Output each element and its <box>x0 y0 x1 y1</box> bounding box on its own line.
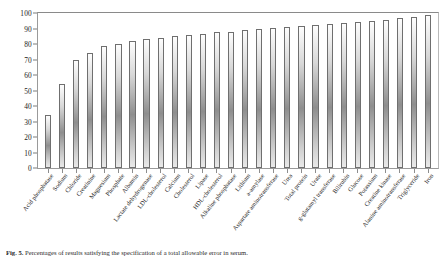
bar-slot <box>125 13 139 168</box>
bar-slot <box>41 13 55 168</box>
y-tick-label: 90 <box>24 24 32 33</box>
bar-slot <box>280 13 294 168</box>
y-tick-label: 70 <box>24 55 32 64</box>
bar-slot <box>351 13 365 168</box>
bar-slot <box>168 13 182 168</box>
bar <box>270 28 276 168</box>
bar <box>59 84 65 168</box>
bar <box>87 53 93 168</box>
bar <box>284 27 290 168</box>
y-tick-label: 20 <box>24 133 32 142</box>
bar-slot <box>224 13 238 168</box>
bar-slot <box>140 13 154 168</box>
bar-slot <box>210 13 224 168</box>
x-tick-label-text: Acid phosphatase <box>21 172 54 212</box>
bar <box>341 23 347 168</box>
bar-slot <box>421 13 435 168</box>
bar-slot <box>393 13 407 168</box>
bar-slot <box>196 13 210 168</box>
bar <box>45 115 51 168</box>
x-axis-labels: Acid phosphataseSodiumChlorideCreatinine… <box>0 170 445 245</box>
bar <box>214 32 220 168</box>
bar <box>228 32 234 168</box>
caption-label: Fig. 5. <box>6 249 23 256</box>
bar <box>327 24 333 168</box>
caption-text: Percentages of results satisfying the sp… <box>25 249 248 256</box>
bar-slot <box>83 13 97 168</box>
bar-series <box>38 13 438 168</box>
bar <box>200 34 206 168</box>
figure-caption: Fig. 5. Percentages of results satisfyin… <box>6 249 441 259</box>
y-tick-label: 100 <box>20 9 32 18</box>
bar <box>298 26 304 168</box>
bar <box>312 25 318 168</box>
bar-slot <box>69 13 83 168</box>
bar <box>186 35 192 168</box>
bar <box>411 17 417 168</box>
bar <box>355 22 361 168</box>
bar <box>397 18 403 168</box>
x-tick-label: Acid phosphatase <box>21 172 54 212</box>
bar <box>172 36 178 168</box>
bar-slot <box>252 13 266 168</box>
y-tick-label: 10 <box>24 148 32 157</box>
bar <box>242 30 248 168</box>
bar-slot <box>154 13 168 168</box>
bar <box>369 21 375 168</box>
bar <box>129 41 135 168</box>
y-tick-label: 40 <box>24 102 32 111</box>
y-tick-label: 80 <box>24 40 32 49</box>
bar-slot <box>55 13 69 168</box>
bar <box>158 38 164 168</box>
bar <box>143 39 149 168</box>
plot-area <box>37 12 439 169</box>
bar-slot <box>266 13 280 168</box>
x-tick-label-text: Iron <box>423 172 435 185</box>
bar-slot <box>238 13 252 168</box>
y-tick-label: 60 <box>24 71 32 80</box>
bar-slot <box>308 13 322 168</box>
bar-slot <box>365 13 379 168</box>
bar <box>425 15 431 168</box>
y-tick-label: 50 <box>24 86 32 95</box>
bar <box>256 29 262 169</box>
figure-container: 0102030405060708090100 Acid phosphataseS… <box>0 0 445 259</box>
y-tick-label: 30 <box>24 117 32 126</box>
bar <box>383 20 389 168</box>
bar-slot <box>379 13 393 168</box>
bar-slot <box>97 13 111 168</box>
bar <box>101 46 107 168</box>
y-axis: 0102030405060708090100 <box>0 12 37 169</box>
bar-slot <box>323 13 337 168</box>
x-tick-label: Iron <box>423 172 435 185</box>
bar-slot <box>337 13 351 168</box>
bar <box>73 60 79 169</box>
bar-slot <box>182 13 196 168</box>
bar-slot <box>111 13 125 168</box>
bar <box>115 44 121 168</box>
bar-slot <box>294 13 308 168</box>
bar-slot <box>407 13 421 168</box>
